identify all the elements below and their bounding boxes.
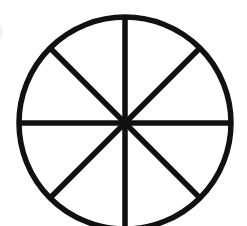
spokes-group (19, 17, 231, 226)
divided-circle-diagram (0, 0, 247, 226)
